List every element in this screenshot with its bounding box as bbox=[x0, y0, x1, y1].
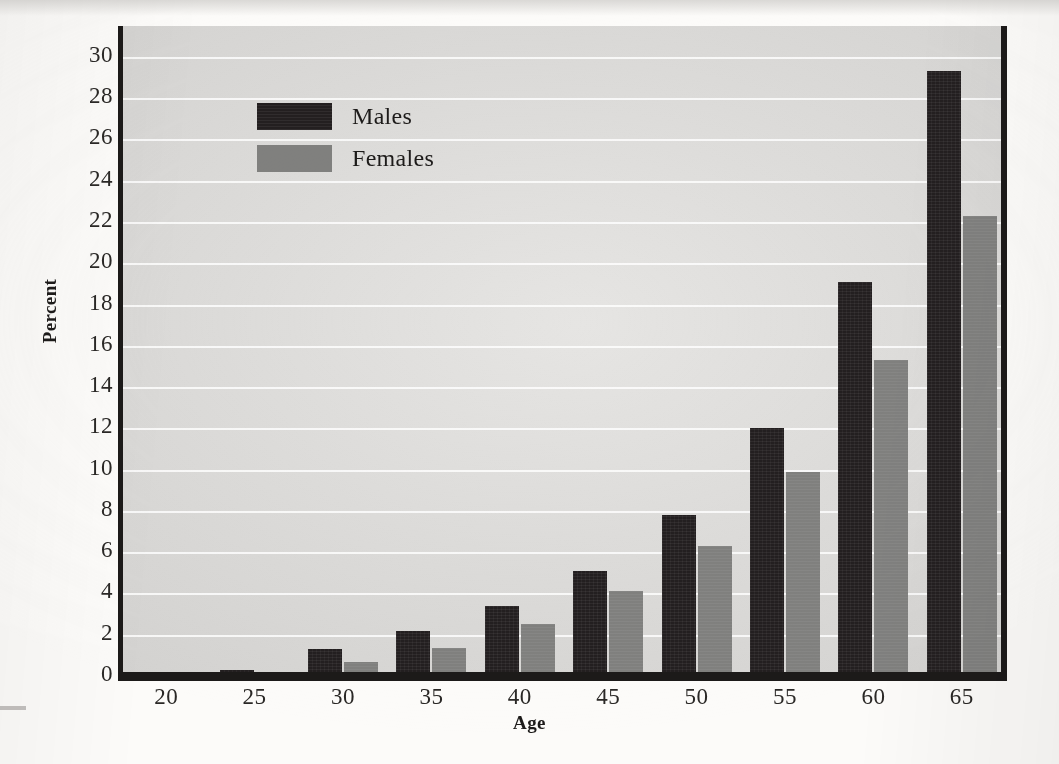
y-tick-label: 0 bbox=[75, 661, 113, 687]
bar-males-65 bbox=[927, 71, 961, 676]
bar-females-60 bbox=[874, 360, 908, 676]
bar-females-65 bbox=[963, 216, 997, 676]
bar-chart: 024681012141618202224262830 202530354045… bbox=[0, 0, 1059, 764]
y-tick-label: 10 bbox=[75, 455, 113, 481]
legend-item-males: Males bbox=[257, 103, 434, 130]
y-tick-label: 6 bbox=[75, 537, 113, 563]
x-tick-label: 65 bbox=[922, 684, 1002, 710]
bar-males-45 bbox=[573, 571, 607, 676]
bar-females-55 bbox=[786, 472, 820, 676]
bar-males-60 bbox=[838, 282, 872, 676]
bar-males-50 bbox=[662, 515, 696, 676]
y-axis-line bbox=[118, 26, 123, 681]
bar-females-50 bbox=[698, 546, 732, 676]
bar-males-35 bbox=[396, 631, 430, 676]
bar-males-40 bbox=[485, 606, 519, 676]
plot-right-border bbox=[1001, 26, 1007, 681]
y-tick-label: 14 bbox=[75, 372, 113, 398]
chart-legend: MalesFemales bbox=[257, 103, 434, 187]
x-tick-label: 20 bbox=[126, 684, 206, 710]
y-tick-label: 28 bbox=[75, 83, 113, 109]
x-tick-label: 60 bbox=[833, 684, 913, 710]
legend-item-females: Females bbox=[257, 145, 434, 172]
y-tick-label: 24 bbox=[75, 166, 113, 192]
y-tick-label: 26 bbox=[75, 124, 113, 150]
y-tick-label: 22 bbox=[75, 207, 113, 233]
x-tick-label: 55 bbox=[745, 684, 825, 710]
x-tick-label: 30 bbox=[303, 684, 383, 710]
y-tick-label: 4 bbox=[75, 578, 113, 604]
x-tick-label: 50 bbox=[657, 684, 737, 710]
y-tick-label: 18 bbox=[75, 290, 113, 316]
y-tick-label: 12 bbox=[75, 413, 113, 439]
y-tick-label: 2 bbox=[75, 620, 113, 646]
scan-edge-mark bbox=[0, 706, 26, 710]
y-axis-title: Percent bbox=[39, 279, 61, 344]
legend-label-females: Females bbox=[352, 145, 434, 172]
x-tick-label: 40 bbox=[480, 684, 560, 710]
legend-label-males: Males bbox=[352, 103, 412, 130]
x-tick-label: 45 bbox=[568, 684, 648, 710]
x-tick-label: 35 bbox=[391, 684, 471, 710]
bars-layer bbox=[122, 26, 1006, 676]
y-tick-label: 16 bbox=[75, 331, 113, 357]
x-axis-title: Age bbox=[0, 712, 1059, 734]
legend-swatch-females bbox=[257, 145, 332, 172]
bar-females-40 bbox=[521, 624, 555, 676]
bar-females-45 bbox=[609, 591, 643, 676]
x-tick-label: 25 bbox=[215, 684, 295, 710]
y-tick-label: 30 bbox=[75, 42, 113, 68]
bar-males-55 bbox=[750, 428, 784, 676]
y-tick-label: 8 bbox=[75, 496, 113, 522]
legend-swatch-males bbox=[257, 103, 332, 130]
y-tick-label: 20 bbox=[75, 248, 113, 274]
x-axis-line bbox=[118, 672, 1007, 681]
